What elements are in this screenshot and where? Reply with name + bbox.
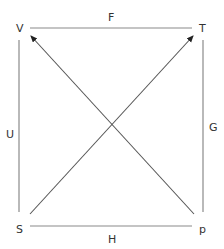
edge-h-label: H [108,233,116,246]
diagram-canvas: V T S p F H U G [0,0,224,249]
node-s-label: S [16,223,23,236]
arrow-s-to-t [30,36,193,214]
edge-g-label: G [209,121,218,134]
node-t-label: T [198,22,206,35]
edge-u-label: U [6,128,14,141]
node-p-label: p [199,223,206,236]
arrow-p-to-v [31,36,194,214]
edge-f-label: F [108,11,114,24]
node-v-label: V [16,22,24,35]
